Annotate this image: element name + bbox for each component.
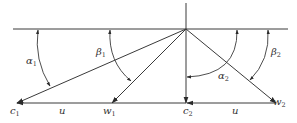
label-beta1: β1 bbox=[95, 46, 106, 59]
w2-vector bbox=[186, 29, 276, 103]
label-c2: c2 bbox=[183, 105, 193, 118]
alpha2-arc bbox=[187, 30, 237, 77]
label-alpha1: α1 bbox=[26, 55, 37, 68]
svg-text:β2: β2 bbox=[270, 46, 281, 59]
label-alpha2: α2 bbox=[218, 70, 229, 83]
svg-text:c1: c1 bbox=[10, 105, 20, 118]
beta1-arc bbox=[110, 30, 131, 81]
svg-text:α1: α1 bbox=[26, 55, 37, 68]
alpha1-arc bbox=[37, 30, 50, 86]
velocity-triangle-diagram: c1 u w1 c2 u w2 α1 β1 α2 β2 bbox=[0, 0, 297, 123]
svg-text:u: u bbox=[59, 105, 65, 116]
svg-text:w2: w2 bbox=[273, 96, 286, 109]
svg-text:u: u bbox=[232, 105, 238, 116]
svg-text:β1: β1 bbox=[95, 46, 106, 59]
label-w1: w1 bbox=[103, 105, 116, 118]
svg-text:c2: c2 bbox=[183, 105, 193, 118]
label-c1: c1 bbox=[10, 105, 20, 118]
svg-text:w1: w1 bbox=[103, 105, 116, 118]
w1-vector bbox=[112, 29, 186, 103]
c1-vector bbox=[17, 29, 186, 103]
beta2-arc bbox=[250, 30, 268, 80]
label-w2: w2 bbox=[273, 96, 286, 109]
label-u-right: u bbox=[232, 105, 238, 116]
svg-text:α2: α2 bbox=[218, 70, 229, 83]
label-u-left: u bbox=[59, 105, 65, 116]
label-beta2: β2 bbox=[270, 46, 281, 59]
